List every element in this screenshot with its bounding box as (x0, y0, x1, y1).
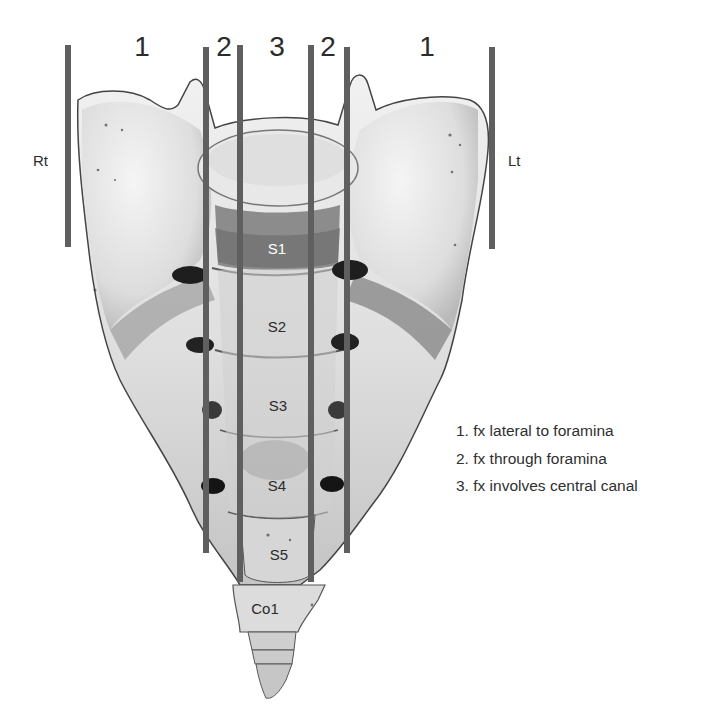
zone-label-1-left: 1 (419, 33, 435, 61)
segment-label-s1: S1 (268, 241, 286, 256)
sacrum-illustration (0, 0, 710, 719)
legend-item-zone-1: 1. fx lateral to foramina (456, 420, 638, 448)
zone-label-2-left: 2 (320, 33, 336, 61)
segment-label-s4: S4 (268, 478, 286, 493)
side-label-left: Lt (508, 153, 521, 168)
segment-label-s3: S3 (269, 398, 287, 413)
zone-divider-line (65, 45, 71, 247)
segment-label-s5: S5 (270, 547, 288, 562)
zone-divider-line (237, 45, 243, 582)
zone-divider-line (489, 47, 495, 249)
zone-divider-line (203, 47, 209, 553)
zone-label-2-right: 2 (216, 33, 232, 61)
side-label-right: Rt (33, 153, 48, 168)
zone-divider-line (344, 47, 350, 553)
zone-label-3-center: 3 (269, 33, 285, 61)
segment-label-s2: S2 (268, 319, 286, 334)
legend-item-zone-2: 2. fx through foramina (456, 448, 638, 476)
legend-item-zone-3: 3. fx involves central canal (456, 475, 638, 503)
segment-label-co1: Co1 (251, 601, 279, 616)
zone-divider-line (308, 45, 314, 582)
zone-label-1-right: 1 (134, 33, 150, 61)
legend: 1. fx lateral to foramina 2. fx through … (456, 420, 638, 503)
